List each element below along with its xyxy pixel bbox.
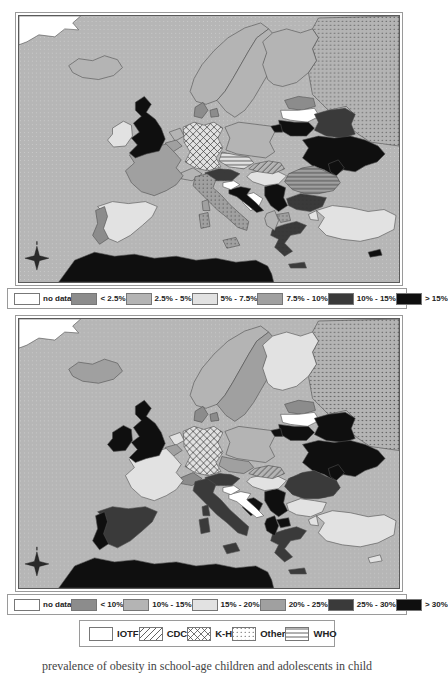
- legend-swatch: [328, 293, 354, 305]
- source-legend-item-who: WHO: [285, 627, 336, 641]
- source-legend-item-k-h: K-H: [187, 627, 232, 641]
- legend-label: > 15%: [425, 294, 448, 303]
- legend-swatch: [260, 599, 286, 611]
- legend-label: 5% - 7.5%: [221, 294, 258, 303]
- legend-swatch: [257, 293, 283, 305]
- legend-item-2-5: < 2.5%: [71, 293, 125, 305]
- legend-swatch: [396, 599, 422, 611]
- legend-swatch: [14, 293, 40, 305]
- source-legend-label: K-H: [215, 628, 232, 639]
- legend-swatch: [71, 599, 97, 611]
- legend-item-no-data: no data: [14, 293, 71, 305]
- legend-label: 25% - 30%: [357, 600, 396, 609]
- legend-label: 10% - 15%: [152, 600, 191, 609]
- legend-swatch: [328, 599, 354, 611]
- legend-swatch: [123, 599, 149, 611]
- legend-swatch: [192, 599, 218, 611]
- country-germany-pattern-overlay: [183, 426, 223, 475]
- legend-item-20-25: 20% - 25%: [260, 599, 328, 611]
- legend-item-2-5-5: 2.5% - 5%: [126, 293, 192, 305]
- legend-item-10-15: 10% - 15%: [328, 293, 396, 305]
- pattern-swatch-dots: [232, 627, 256, 641]
- source-legend-label: WHO: [313, 628, 336, 639]
- source-legend-label: CDC: [167, 628, 188, 639]
- legend-item-no-data: no data: [14, 599, 71, 611]
- legend-label: no data: [43, 294, 71, 303]
- pattern-swatch-cross: [187, 627, 211, 641]
- legend-swatch: [396, 293, 422, 305]
- source-legend-item-iotf: IOTF: [89, 627, 139, 641]
- country-poland: [225, 122, 275, 158]
- legend-item-10-15: 10% - 15%: [123, 599, 191, 611]
- legend-item-7-5-10: 7.5% - 10%: [257, 293, 327, 305]
- legend-item-15: > 15%: [396, 293, 448, 305]
- map-panel-top: [15, 12, 403, 286]
- country-sardinia: [199, 518, 210, 534]
- legend-swatch: [14, 599, 40, 611]
- source-legend-item-cdc: CDC: [139, 627, 188, 641]
- source-legend-label: IOTF: [117, 628, 139, 639]
- figure-caption: prevalence of obesity in school-age chil…: [0, 659, 414, 674]
- source-legend-item-other: Other: [232, 627, 285, 641]
- legend-label: 15% - 20%: [221, 600, 260, 609]
- legend-label: 10% - 15%: [357, 294, 396, 303]
- legend-label: < 10%: [100, 600, 123, 609]
- map-panel-bottom: [15, 315, 403, 592]
- legend-item-10: < 10%: [71, 599, 123, 611]
- legend-swatch: [71, 293, 97, 305]
- europe-choropleth-map-top: [18, 15, 400, 283]
- country-poland: [225, 426, 275, 462]
- legend-top-map: no data< 2.5%2.5% - 5%5% - 7.5%7.5% - 10…: [7, 288, 407, 309]
- legend-swatch: [126, 293, 152, 305]
- reference-source-legend: IOTFCDCK-HOtherWHO: [79, 620, 335, 647]
- pattern-swatch-plain: [89, 627, 113, 641]
- europe-choropleth-map-bottom: [18, 318, 400, 589]
- legend-label: 20% - 25%: [289, 600, 328, 609]
- legend-item-30: > 30%: [396, 599, 448, 611]
- legend-item-25-30: 25% - 30%: [328, 599, 396, 611]
- pattern-swatch-hlines: [285, 627, 309, 641]
- source-legend-label: Other: [260, 628, 285, 639]
- legend-swatch: [192, 293, 218, 305]
- legend-label: > 30%: [425, 600, 448, 609]
- legend-item-15-20: 15% - 20%: [192, 599, 260, 611]
- country-germany-pattern-overlay: [183, 122, 223, 171]
- legend-label: < 2.5%: [100, 294, 125, 303]
- legend-label: 7.5% - 10%: [286, 294, 327, 303]
- legend-item-5-7-5: 5% - 7.5%: [192, 293, 258, 305]
- legend-bottom-map: no data< 10%10% - 15%15% - 20%20% - 25%2…: [7, 594, 407, 615]
- pattern-swatch-diag: [139, 627, 163, 641]
- legend-label: 2.5% - 5%: [155, 294, 192, 303]
- legend-label: no data: [43, 600, 71, 609]
